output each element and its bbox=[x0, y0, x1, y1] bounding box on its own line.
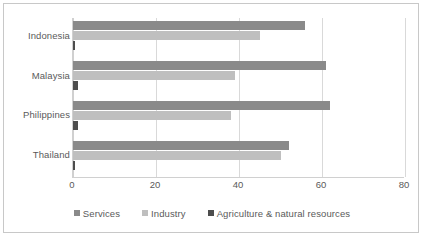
bar-agriculture bbox=[73, 161, 75, 170]
bar-agriculture bbox=[73, 81, 78, 90]
plot-area bbox=[72, 18, 404, 177]
legend-swatch-icon bbox=[208, 210, 214, 216]
legend-item[interactable]: Industry bbox=[142, 208, 186, 219]
legend-item[interactable]: Agriculture & natural resources bbox=[208, 208, 351, 219]
legend-item[interactable]: Services bbox=[74, 208, 120, 219]
legend-label: Services bbox=[83, 208, 120, 219]
bar-services bbox=[73, 21, 305, 30]
y-axis-category-labels: IndonesiaMalaysiaPhilippinesThailand bbox=[8, 18, 70, 177]
bar-group bbox=[73, 141, 404, 170]
y-axis-label-thailand: Thailand bbox=[8, 149, 70, 160]
bar-services bbox=[73, 101, 330, 110]
chart-frame: IndonesiaMalaysiaPhilippinesThailand 020… bbox=[3, 3, 419, 233]
bar-services bbox=[73, 141, 289, 150]
legend-label: Industry bbox=[151, 208, 186, 219]
y-axis-label-indonesia: Indonesia bbox=[8, 30, 70, 41]
bar-group bbox=[73, 21, 404, 50]
legend-swatch-icon bbox=[142, 210, 148, 216]
x-axis-tick-labels: 020406080 bbox=[72, 179, 404, 195]
bar-services bbox=[73, 61, 326, 70]
bar-group bbox=[73, 101, 404, 130]
x-tick-label: 60 bbox=[316, 179, 327, 190]
bar-industry bbox=[73, 31, 260, 40]
legend-swatch-icon bbox=[74, 210, 80, 216]
bar-industry bbox=[73, 111, 231, 120]
bar-group bbox=[73, 61, 404, 90]
y-axis-label-philippines: Philippines bbox=[8, 109, 70, 120]
x-tick-label: 80 bbox=[399, 179, 410, 190]
bar-agriculture bbox=[73, 41, 75, 50]
gridline-80 bbox=[405, 18, 406, 177]
bar-agriculture bbox=[73, 121, 78, 130]
x-axis-line bbox=[72, 177, 404, 178]
x-tick-label: 0 bbox=[69, 179, 74, 190]
y-axis-label-malaysia: Malaysia bbox=[8, 70, 70, 81]
x-tick-label: 40 bbox=[233, 179, 244, 190]
bar-industry bbox=[73, 71, 235, 80]
chart-legend: ServicesIndustryAgriculture & natural re… bbox=[4, 204, 420, 222]
legend-label: Agriculture & natural resources bbox=[217, 208, 351, 219]
bar-industry bbox=[73, 151, 281, 160]
x-tick-label: 20 bbox=[150, 179, 161, 190]
